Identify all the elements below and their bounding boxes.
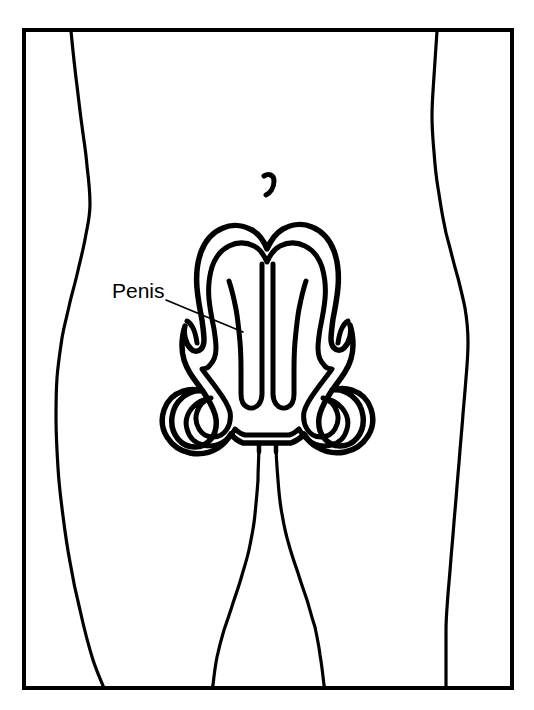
penis-label: Penis — [112, 279, 165, 302]
anatomy-illustration: Penis — [0, 0, 534, 710]
anatomy-figure: Penis — [0, 0, 534, 710]
